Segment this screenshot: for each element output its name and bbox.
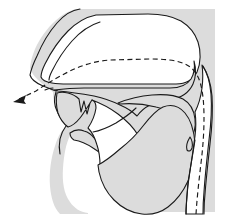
vocal-tract-figure: Midsagittal section of the vocal tract h… <box>0 0 230 224</box>
vocal-tract-diagram <box>0 0 230 224</box>
